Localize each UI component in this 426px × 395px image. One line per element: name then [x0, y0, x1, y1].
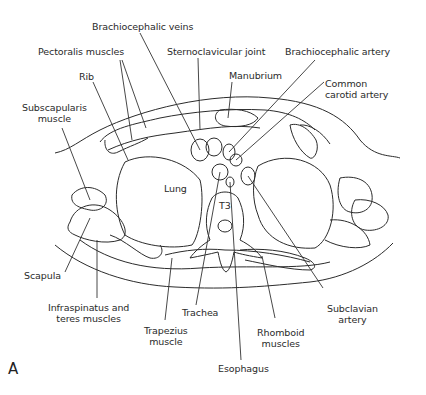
leader-trachea — [196, 172, 220, 305]
label-infraspinatus-teres: Infraspinatus and teres muscles — [48, 302, 129, 324]
label-trapezius-muscle: Trapezius muscle — [144, 325, 188, 347]
label-esophagus: Esophagus — [218, 363, 269, 374]
right-scapula — [338, 177, 372, 213]
label-subclavian-line1: Subclavian — [327, 303, 378, 314]
pectoralis-band — [100, 109, 315, 142]
left-subscapularis — [72, 188, 107, 211]
label-brachiocephalic-artery: Brachiocephalic artery — [285, 46, 390, 57]
label-manubrium: Manubrium — [229, 70, 282, 81]
trapezius-band — [165, 249, 310, 262]
leader-rib — [93, 82, 128, 160]
label-rhomboid-muscles: Rhomboid muscles — [257, 327, 304, 349]
label-brachiocephalic-veins: Brachiocephalic veins — [92, 21, 193, 32]
right-lung — [254, 158, 334, 248]
label-common-carotid-artery: Common carotid artery — [325, 78, 388, 100]
leader-esophagus — [230, 182, 241, 360]
leader-manubrium — [228, 82, 232, 118]
label-sternoclavicular-joint: Sternoclavicular joint — [167, 46, 265, 57]
label-trachea: Trachea — [182, 307, 218, 318]
label-infraspinatus-line1: Infraspinatus and — [48, 302, 129, 313]
leader-pectoralis-2 — [122, 60, 146, 128]
label-common-carotid-line2: carotid artery — [325, 89, 388, 100]
label-infraspinatus-line2: teres muscles — [48, 313, 129, 324]
label-subclavian-artery: Subclavian artery — [327, 303, 378, 325]
label-rib: Rib — [79, 71, 94, 82]
label-lung: Lung — [164, 183, 187, 194]
label-subscapularis-line2: muscle — [22, 113, 87, 124]
label-subscapularis-muscle: Subscapularis muscle — [22, 102, 87, 124]
label-rhomboid-line2: muscles — [257, 338, 304, 349]
label-subscapularis-line1: Subscapularis — [22, 102, 87, 113]
label-subclavian-line2: artery — [327, 314, 378, 325]
panel-label: A — [8, 360, 18, 378]
label-trapezius-line1: Trapezius — [144, 325, 188, 336]
leader-subscapularis — [62, 128, 90, 200]
label-rhomboid-line1: Rhomboid — [257, 327, 304, 338]
thorax-cross-section-diagram — [0, 0, 426, 395]
left-lung — [116, 157, 202, 247]
label-scapula: Scapula — [24, 270, 61, 281]
leader-scapula — [65, 218, 90, 272]
leader-trapezius — [165, 258, 172, 320]
label-pectoralis-muscles: Pectoralis muscles — [38, 46, 124, 57]
leader-common-carotid — [236, 82, 324, 160]
manubrium — [215, 109, 258, 126]
leader-subclavian — [248, 176, 323, 288]
label-t3: T3 — [219, 200, 231, 211]
leader-sternoclavicular — [198, 58, 200, 130]
label-trapezius-line2: muscle — [144, 336, 188, 347]
vertebral-foramen — [218, 220, 232, 232]
label-common-carotid-line1: Common — [325, 78, 388, 89]
